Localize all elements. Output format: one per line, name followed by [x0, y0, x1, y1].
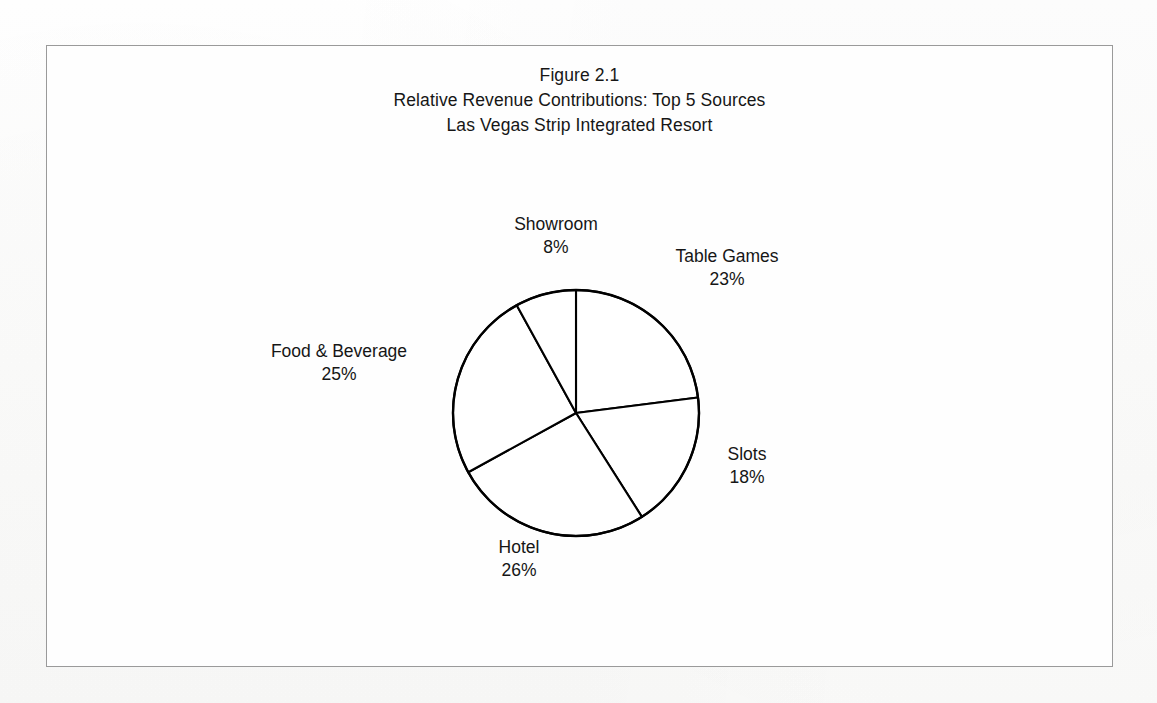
pie-label-hotel-name: Hotel [429, 536, 609, 559]
pie-slice-group [453, 290, 699, 536]
figure-frame: Figure 2.1 Relative Revenue Contribution… [46, 45, 1113, 667]
pie-label-slots-value: 18% [677, 466, 817, 489]
pie-label-showroom-name: Showroom [466, 213, 646, 236]
pie-label-slots-name: Slots [677, 443, 817, 466]
pie-label-showroom: Showroom 8% [466, 213, 646, 259]
pie-label-table-games-name: Table Games [627, 245, 827, 268]
pie-label-hotel-value: 26% [429, 559, 609, 582]
pie-label-table-games: Table Games 23% [627, 245, 827, 291]
pie-label-showroom-value: 8% [466, 236, 646, 259]
pie-slice-table-games [576, 290, 698, 413]
pie-label-food-beverage-value: 25% [229, 363, 449, 386]
pie-label-food-beverage: Food & Beverage 25% [229, 340, 449, 386]
pie-label-table-games-value: 23% [627, 268, 827, 291]
pie-chart: Showroom 8% Table Games 23% Food & Bever… [47, 46, 1112, 666]
pie-label-food-beverage-name: Food & Beverage [229, 340, 449, 363]
pie-label-slots: Slots 18% [677, 443, 817, 489]
pie-label-hotel: Hotel 26% [429, 536, 609, 582]
